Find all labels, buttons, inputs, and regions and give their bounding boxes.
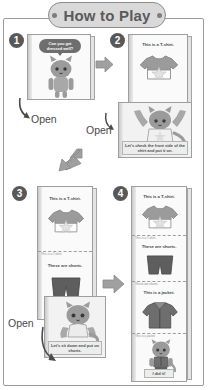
- step-1-speech-bubble: Can you get dressed well?: [39, 39, 81, 53]
- step-1-spine: [28, 35, 32, 99]
- jacket-illustration: [142, 301, 178, 329]
- step-4-jacket-caption: This is a jacket.: [132, 290, 186, 296]
- step-3-number: 3: [12, 186, 27, 201]
- tshirt-illustration-3: [142, 204, 178, 229]
- step-4-number: 4: [113, 186, 128, 201]
- open-label-1: Open: [31, 114, 57, 125]
- step-3-tshirt-caption: This is a T-shirt.: [38, 196, 92, 202]
- tshirt-illustration: [140, 54, 178, 80]
- step-4-open-book: This is a T-shirt. This is a T-shirt. Th…: [131, 186, 187, 382]
- step-2-number: 2: [110, 33, 125, 48]
- tshirt-illustration-2: [48, 208, 84, 233]
- arrow-right-1-icon: [96, 56, 114, 74]
- cat-standing-illustration: [44, 55, 78, 99]
- step-1-number: 1: [9, 33, 24, 48]
- step-3-page-tag: This is a T-shirt.: [41, 252, 62, 256]
- how-to-play-header: How to Play: [48, 2, 166, 28]
- step-2-bottom-caption: Let's check the front side of the shirt …: [122, 141, 188, 155]
- step-2-top-page: This is a T-shirt.: [128, 34, 188, 106]
- arrow-right-2-icon: [103, 274, 125, 294]
- step-1-book-cover: Can you get dressed well?: [27, 34, 91, 100]
- step-4-page-edge: [187, 188, 192, 380]
- open-label-3: Open: [8, 318, 34, 329]
- open-curve-arrow-3-icon: [40, 326, 74, 368]
- step-4-final-caption: I did it!: [144, 369, 174, 378]
- page-title: How to Play: [63, 8, 150, 23]
- step-4-tag-3: This is a jacket.: [135, 334, 156, 338]
- open-label-2: Open: [86, 125, 112, 136]
- step-2-bottom-page: Let's check the front side of the shirt …: [118, 102, 192, 158]
- step-4-shorts-caption: These are shorts.: [132, 244, 186, 250]
- header-left-dot-icon: [52, 13, 57, 18]
- step-3-shorts-caption: These are shorts.: [38, 263, 92, 269]
- arrow-down-left-icon: [57, 148, 83, 174]
- step-4-tag-1: This is a T-shirt.: [135, 236, 156, 240]
- step-4-tag-2: These are shorts.: [135, 282, 158, 286]
- shorts-illustration-2: [145, 255, 175, 275]
- step-4-tshirt-caption: This is a T-shirt.: [132, 194, 186, 200]
- cat-putting-on-shirt-illustration: [133, 105, 187, 145]
- header-right-dot-icon: [157, 13, 162, 18]
- step-2-tshirt-caption: This is a T-shirt.: [129, 42, 187, 48]
